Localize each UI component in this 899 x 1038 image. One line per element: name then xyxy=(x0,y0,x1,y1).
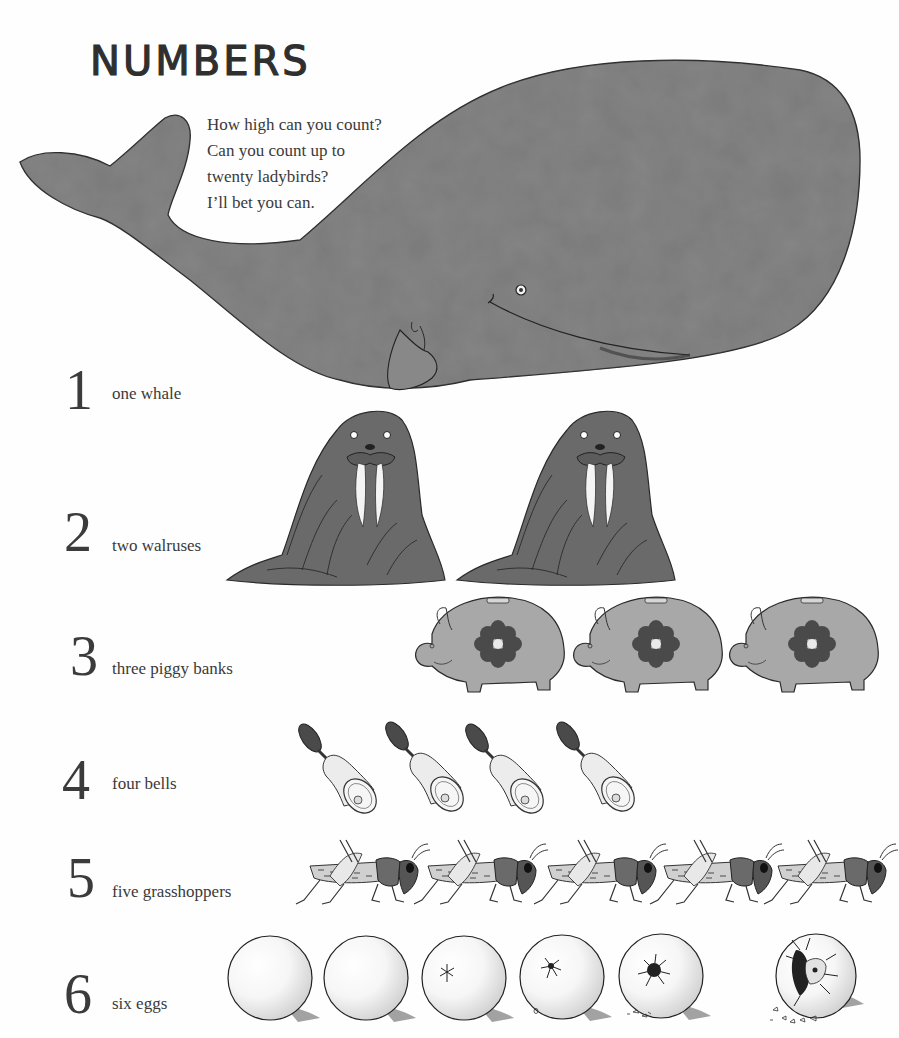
piggy-bank-icon xyxy=(730,597,879,692)
grasshopper-icon xyxy=(296,840,430,904)
grasshopper-icon xyxy=(650,840,784,904)
grasshopper-group xyxy=(296,840,898,904)
walrus-group xyxy=(227,411,675,585)
grasshopper-icon xyxy=(414,840,548,904)
bell-group xyxy=(294,718,641,819)
egg-icon xyxy=(422,936,514,1022)
row-number-5: 5 xyxy=(67,850,95,906)
egg-group xyxy=(228,934,864,1023)
piggy-bank-icon xyxy=(574,597,723,692)
intro-text: How high can you count? Can you count up… xyxy=(207,112,447,216)
egg-icon xyxy=(520,935,612,1021)
piggy-bank-group xyxy=(416,597,879,692)
walrus-icon xyxy=(227,411,445,585)
row-number-6: 6 xyxy=(64,966,92,1022)
row-label-5: five grasshoppers xyxy=(112,882,231,902)
intro-line: How high can you count? xyxy=(207,112,447,138)
row-label-2: two walruses xyxy=(112,536,201,556)
intro-line: I’ll bet you can. xyxy=(207,190,447,216)
grasshopper-icon xyxy=(534,840,668,904)
row-label-4: four bells xyxy=(112,774,177,794)
bell-icon xyxy=(461,720,550,819)
row-label-3: three piggy banks xyxy=(112,659,233,679)
egg-icon xyxy=(770,934,864,1023)
intro-line: twenty ladybirds? xyxy=(207,164,447,190)
row-label-1: one whale xyxy=(112,384,181,404)
row-number-4: 4 xyxy=(62,752,90,808)
bell-icon xyxy=(381,718,470,817)
egg-icon xyxy=(619,934,711,1020)
row-number-1: 1 xyxy=(65,362,93,418)
piggy-bank-icon xyxy=(416,597,565,692)
row-number-3: 3 xyxy=(70,628,98,684)
grasshopper-icon xyxy=(764,840,898,904)
egg-icon xyxy=(324,936,416,1022)
egg-icon xyxy=(228,936,320,1022)
walrus-icon xyxy=(457,411,675,585)
intro-line: Can you count up to xyxy=(207,138,447,164)
book-page: NUMBERS How high can you count? Can you … xyxy=(0,0,899,1038)
bell-icon xyxy=(294,720,383,819)
row-number-2: 2 xyxy=(64,504,92,560)
whale-illustration xyxy=(20,60,860,389)
bell-icon xyxy=(552,718,641,817)
row-label-6: six eggs xyxy=(112,994,167,1014)
